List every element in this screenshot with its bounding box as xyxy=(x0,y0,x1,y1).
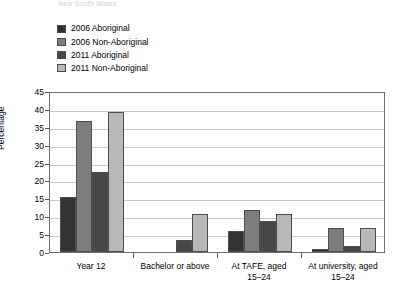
bar xyxy=(76,121,92,252)
y-axis-tick-label: 15 xyxy=(0,194,44,204)
y-axis-tick-label: 40 xyxy=(0,105,44,115)
bar xyxy=(192,214,208,252)
bar xyxy=(312,249,328,252)
bars-layer xyxy=(50,93,384,252)
legend-swatch-icon xyxy=(57,25,66,33)
legend-swatch-icon xyxy=(57,51,66,59)
bar-group xyxy=(60,93,124,252)
legend-item-label: 2011 Aboriginal xyxy=(71,51,129,60)
x-axis-tick-label-line: 15–24 xyxy=(301,272,385,283)
legend-item: 2011 Aboriginal xyxy=(57,48,149,61)
y-axis-tick-label: 10 xyxy=(0,212,44,222)
bar-chart: New South Wales 2006 Aboriginal2006 Non-… xyxy=(0,0,403,293)
x-axis-tick-label-line: 15–24 xyxy=(217,272,301,283)
bar xyxy=(344,246,360,252)
bar xyxy=(260,221,276,252)
bar xyxy=(244,210,260,252)
bar xyxy=(360,228,376,252)
x-axis-tick-label-line: At university, aged xyxy=(301,261,385,272)
x-axis-tick-mark xyxy=(133,253,134,258)
bar xyxy=(228,231,244,252)
bar xyxy=(176,240,192,252)
x-axis-tick-label: Year 12 xyxy=(49,261,133,272)
x-axis-tick-label-line: Year 12 xyxy=(49,261,133,272)
x-axis-tick-label: At university, aged15–24 xyxy=(301,261,385,282)
bar xyxy=(276,214,292,252)
legend-item: 2006 Aboriginal xyxy=(57,22,149,35)
legend-item-label: 2006 Non-Aboriginal xyxy=(71,38,149,47)
y-axis-tick-label: 45 xyxy=(0,87,44,97)
legend-item-label: 2006 Aboriginal xyxy=(71,24,130,33)
bar xyxy=(92,172,108,253)
x-axis-tick-label: At TAFE, aged15–24 xyxy=(217,261,301,282)
y-axis-tick-label: 0 xyxy=(0,248,44,258)
bar xyxy=(60,197,76,252)
plot-area xyxy=(49,92,385,253)
y-axis-tick-mark xyxy=(45,253,49,254)
legend-item: 2011 Non-Aboriginal xyxy=(57,62,149,75)
bar-group xyxy=(312,93,376,252)
y-axis-tick-label: 30 xyxy=(0,141,44,151)
x-axis-tick-label-line: At TAFE, aged xyxy=(217,261,301,272)
bar xyxy=(108,112,124,252)
x-axis-tick-mark xyxy=(301,253,302,258)
x-axis-tick-label: Bachelor or above xyxy=(133,261,217,272)
legend-item-label: 2011 Non-Aboriginal xyxy=(71,64,148,73)
legend-item: 2006 Non-Aboriginal xyxy=(57,35,149,48)
y-axis-tick-label: 35 xyxy=(0,123,44,133)
y-axis-tick-label: 25 xyxy=(0,159,44,169)
chart-legend: 2006 Aboriginal2006 Non-Aboriginal2011 A… xyxy=(57,22,149,75)
y-axis-tick-label: 20 xyxy=(0,176,44,186)
x-axis-tick-mark xyxy=(217,253,218,258)
bar-group xyxy=(144,93,208,252)
bar-group xyxy=(228,93,292,252)
y-axis-tick-label: 5 xyxy=(0,230,44,240)
bar xyxy=(328,228,344,252)
legend-swatch-icon xyxy=(57,64,66,72)
legend-swatch-icon xyxy=(57,38,66,46)
x-axis-tick-label-line: Bachelor or above xyxy=(133,261,217,272)
chart-title-cropped: New South Wales xyxy=(58,0,208,11)
